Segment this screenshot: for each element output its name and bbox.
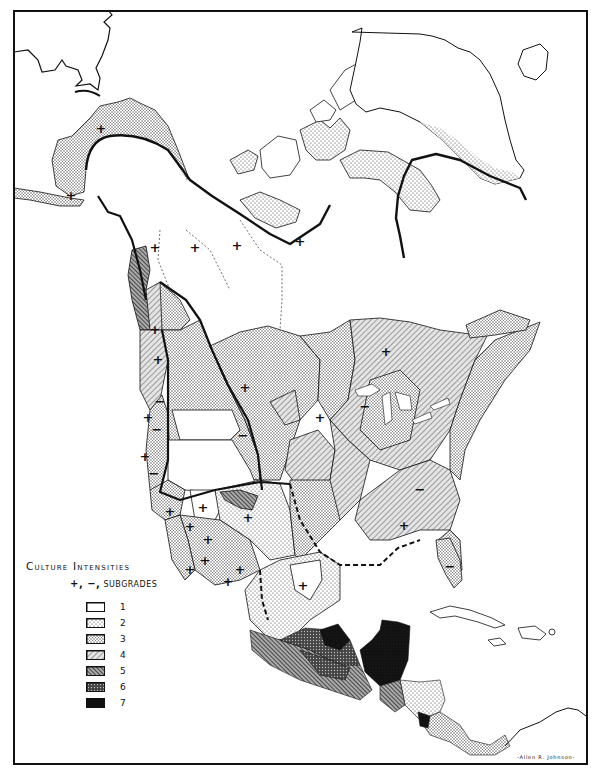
legend-grade-label: 5	[120, 666, 126, 676]
legend-title: Culture Intensities	[26, 560, 190, 572]
legend-item-7: 7	[86, 695, 190, 711]
legend-grade-label: 1	[120, 602, 126, 612]
swatch-grade-3	[86, 634, 105, 644]
legend-grade-label: 3	[120, 634, 126, 644]
subgrade-label: Subgrades	[103, 580, 157, 589]
swatch-grade-7	[86, 698, 105, 708]
legend: Culture Intensities +, −, Subgrades 1 2 …	[20, 560, 190, 711]
legend-item-3: 3	[86, 631, 190, 647]
swatch-grade-4	[86, 650, 105, 660]
legend-grade-label: 6	[120, 682, 126, 692]
swatch-grade-5	[86, 666, 105, 676]
legend-subgrades: +, −, Subgrades	[70, 578, 190, 589]
legend-item-4: 4	[86, 647, 190, 663]
legend-grade-label: 4	[120, 650, 126, 660]
legend-grade-label: 2	[120, 618, 126, 628]
legend-item-2: 2	[86, 615, 190, 631]
subgrade-symbols: +, −,	[70, 578, 100, 589]
legend-item-6: 6	[86, 679, 190, 695]
swatch-grade-2	[86, 618, 105, 628]
legend-item-1: 1	[86, 599, 190, 615]
swatch-grade-6	[86, 682, 105, 692]
legend-item-5: 5	[86, 663, 190, 679]
cartographer-signature: -Allen R. Johnson-	[517, 754, 575, 760]
swatch-grade-1	[86, 602, 105, 612]
legend-grade-label: 7	[120, 698, 126, 708]
